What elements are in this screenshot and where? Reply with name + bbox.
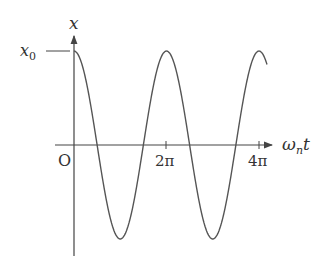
diagram-canvas: x x0 O 2π 4π ωnt (0, 0, 330, 274)
y-axis-label: x (69, 13, 79, 33)
tick-label-4pi: 4π (248, 152, 268, 170)
vibration-diagram: x x0 O 2π 4π ωnt (0, 0, 330, 274)
amplitude-label: x0 (20, 41, 36, 63)
tick-label-2pi: 2π (155, 152, 175, 170)
origin-label: O (58, 151, 71, 170)
x-axis-label: ωnt (282, 134, 310, 157)
